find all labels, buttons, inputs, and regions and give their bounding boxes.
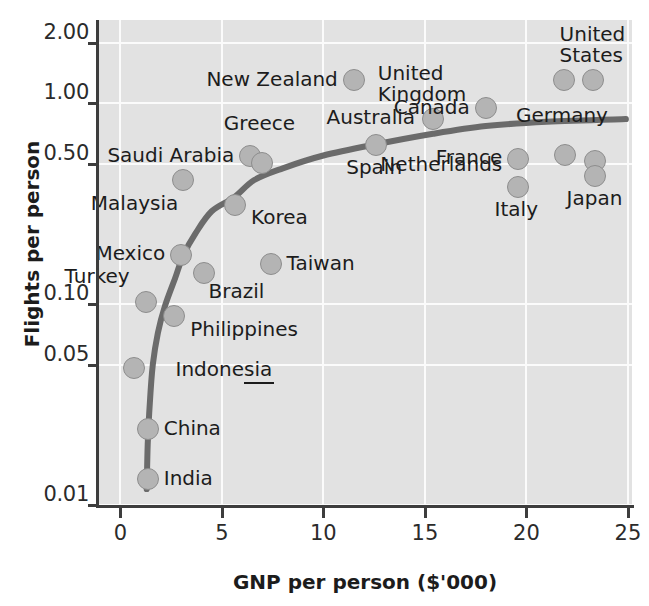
y-tick-label: 0.01 <box>43 482 89 506</box>
data-point-label: Brazil <box>209 281 265 302</box>
data-point-marker[interactable] <box>584 165 606 187</box>
data-point-label: Korea <box>251 207 308 228</box>
gridline-vertical <box>525 20 527 505</box>
data-point-label: Mexico <box>95 243 165 264</box>
y-tick-label: 2.00 <box>43 20 89 44</box>
data-point-label: Malaysia <box>91 193 178 214</box>
x-tick-mark <box>525 508 528 518</box>
data-point-label: Philippines <box>190 319 298 340</box>
y-tick-label: 0.05 <box>43 342 89 366</box>
data-point-marker[interactable] <box>170 244 192 266</box>
y-tick-mark <box>88 102 97 105</box>
data-point-marker[interactable] <box>251 152 273 174</box>
data-point-label: United States <box>560 24 626 66</box>
x-tick-mark <box>221 508 224 518</box>
plot-area: IndiaChinaIndonesiaPhilippinesTurkeyBraz… <box>98 20 632 505</box>
data-point-label: France <box>436 147 503 168</box>
data-point-marker[interactable] <box>137 418 159 440</box>
gridline-vertical <box>627 20 629 505</box>
data-point-label: Indonesia <box>176 359 273 380</box>
x-tick-label: 15 <box>385 521 465 545</box>
data-point-label: New Zealand <box>206 69 337 90</box>
y-tick-mark <box>88 163 97 166</box>
x-tick-mark <box>322 508 325 518</box>
data-point-marker[interactable] <box>123 357 145 379</box>
x-tick-label: 20 <box>486 521 566 545</box>
data-point-marker[interactable] <box>224 194 246 216</box>
data-point-marker[interactable] <box>475 97 497 119</box>
x-tick-mark <box>627 508 630 518</box>
data-point-marker[interactable] <box>507 148 529 170</box>
data-point-marker[interactable] <box>137 468 159 490</box>
x-axis-title: GNP per person ($'000) <box>98 570 632 594</box>
chart-root: IndiaChinaIndonesiaPhilippinesTurkeyBraz… <box>0 0 649 606</box>
data-point-label: China <box>164 418 221 439</box>
y-tick-label: 0.50 <box>43 141 89 165</box>
gridline-vertical <box>221 20 223 505</box>
data-point-label: Greece <box>224 113 295 134</box>
data-point-label: Saudi Arabia <box>107 145 234 166</box>
data-point-label: Germany <box>516 105 608 126</box>
data-point-label: Italy <box>495 199 538 220</box>
data-point-marker[interactable] <box>507 176 529 198</box>
data-point-marker[interactable] <box>343 69 365 91</box>
x-axis-line <box>96 505 634 508</box>
x-tick-label: 10 <box>283 521 363 545</box>
data-point-marker[interactable] <box>135 291 157 313</box>
data-point-label: Canada <box>394 97 470 118</box>
y-tick-mark <box>88 504 97 507</box>
data-point-label: Japan <box>567 188 623 209</box>
y-axis-line <box>96 20 99 507</box>
data-point-marker[interactable] <box>260 253 282 275</box>
y-tick-label: 0.10 <box>43 281 89 305</box>
x-tick-label: 5 <box>182 521 262 545</box>
x-tick-label: 25 <box>588 521 649 545</box>
y-axis-title: Flights per person <box>20 94 44 394</box>
indonesia-leader-line <box>244 382 274 384</box>
data-point-marker[interactable] <box>553 69 575 91</box>
x-tick-mark <box>424 508 427 518</box>
data-point-label: India <box>164 468 213 489</box>
x-tick-label: 0 <box>80 521 160 545</box>
x-tick-mark <box>119 508 122 518</box>
gridline-horizontal <box>98 42 632 44</box>
data-point-marker[interactable] <box>172 169 194 191</box>
data-point-label: Taiwan <box>287 253 355 274</box>
y-tick-mark <box>88 303 97 306</box>
y-tick-label: 1.00 <box>43 80 89 104</box>
data-point-marker[interactable] <box>582 69 604 91</box>
y-tick-mark <box>88 42 97 45</box>
y-tick-mark <box>88 364 97 367</box>
data-point-marker[interactable] <box>163 305 185 327</box>
